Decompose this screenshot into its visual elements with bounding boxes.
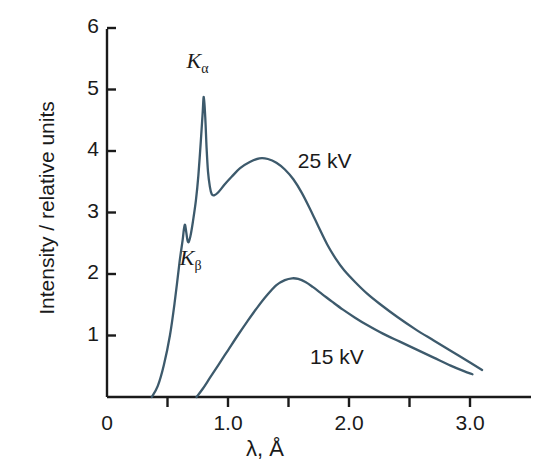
series-label-25kv: 25 kV: [298, 149, 352, 173]
chart-canvas: [0, 0, 543, 474]
x-axis-ticks: [168, 397, 471, 407]
y-tick-label-6: 6: [79, 14, 99, 38]
x-tick-label-0: 0: [77, 411, 137, 435]
k-beta-symbol: K: [180, 245, 195, 270]
k-beta-peak-label: Kβ: [180, 245, 202, 274]
x-tick-label-2.0: 2.0: [319, 411, 379, 435]
k-beta-subscript: β: [194, 258, 201, 273]
y-axis-ticks: [107, 28, 116, 336]
xray-spectrum-figure: 123456 01.02.03.0 Intensity / relative u…: [0, 0, 543, 474]
x-tick-label-3.0: 3.0: [440, 411, 500, 435]
k-alpha-subscript: α: [201, 61, 208, 76]
y-tick-label-5: 5: [79, 76, 99, 100]
y-axis-title: Intensity / relative units: [35, 93, 59, 323]
y-tick-label-3: 3: [79, 199, 99, 223]
y-tick-label-4: 4: [79, 137, 99, 161]
series-label-15kv: 15 kV: [310, 345, 364, 369]
axis-lines: [107, 29, 531, 397]
y-tick-label-2: 2: [79, 260, 99, 284]
y-tick-label-1: 1: [79, 322, 99, 346]
k-alpha-symbol: K: [187, 48, 202, 73]
k-alpha-peak-label: Kα: [187, 48, 209, 77]
x-axis-title: λ, Å: [246, 436, 284, 462]
x-tick-label-1.0: 1.0: [198, 411, 258, 435]
